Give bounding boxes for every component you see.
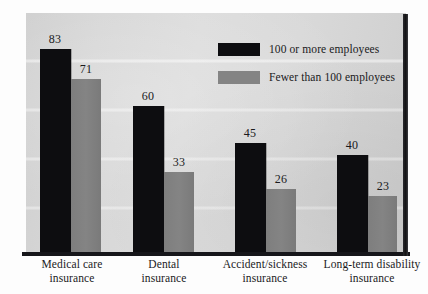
category-label-line-2: insurance	[22, 272, 122, 286]
category-label-long-term-disability: Long-term disability insurance	[316, 258, 428, 285]
value-label-medical-care-fewer-than-100: 71	[69, 62, 103, 77]
legend-item-fewer-than-100: Fewer than 100 employees	[218, 66, 398, 88]
category-label-line-1: Medical care	[22, 258, 122, 272]
bar-long-term-disability-fewer-than-100	[368, 196, 397, 253]
value-label-accident-sickness-fewer-than-100: 26	[264, 172, 298, 187]
category-label-dental: Dental insurance	[120, 258, 208, 285]
category-label-line-1: Accident/sickness	[208, 258, 322, 272]
legend-label-fewer-than-100: Fewer than 100 employees	[269, 71, 395, 83]
value-label-accident-sickness-100-or-more: 45	[233, 126, 267, 141]
category-label-line-1: Long-term disability	[316, 258, 428, 272]
legend-label-100-or-more: 100 or more employees	[269, 43, 379, 55]
bar-medical-care-100-or-more	[40, 49, 71, 253]
value-label-medical-care-100-or-more: 83	[38, 32, 72, 47]
category-label-line-2: insurance	[316, 272, 428, 286]
value-label-dental-fewer-than-100: 33	[162, 155, 196, 170]
category-label-line-1: Dental	[120, 258, 208, 272]
plot-right-edge-rule	[403, 14, 408, 256]
legend-item-100-or-more: 100 or more employees	[218, 38, 398, 60]
category-label-line-2: insurance	[120, 272, 208, 286]
bar-accident-sickness-fewer-than-100	[266, 189, 296, 253]
category-label-line-2: insurance	[208, 272, 322, 286]
bar-dental-fewer-than-100	[164, 172, 194, 253]
legend-swatch-icon-dark	[218, 43, 260, 56]
bar-dental-100-or-more	[133, 106, 164, 253]
category-label-medical-care: Medical care insurance	[22, 258, 122, 285]
legend-swatch-icon-light	[218, 71, 260, 84]
x-axis-baseline	[22, 252, 410, 256]
bar-accident-sickness-100-or-more	[235, 143, 266, 253]
bar-medical-care-fewer-than-100	[71, 79, 101, 253]
bar-long-term-disability-100-or-more	[337, 155, 368, 253]
category-label-accident-sickness: Accident/sickness insurance	[208, 258, 322, 285]
bar-chart-figure: 83 71 60 33 45 26 40 23 100 or more empl…	[0, 0, 428, 294]
value-label-long-term-disability-100-or-more: 40	[335, 138, 369, 153]
chart-legend: 100 or more employees Fewer than 100 emp…	[218, 38, 398, 94]
value-label-dental-100-or-more: 60	[131, 89, 165, 104]
value-label-long-term-disability-fewer-than-100: 23	[366, 179, 400, 194]
